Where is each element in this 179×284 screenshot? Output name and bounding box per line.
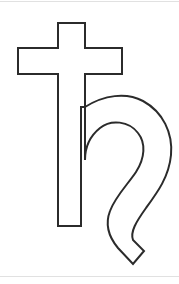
- saturn-shape-group: [18, 23, 171, 264]
- hook-outline: [85, 96, 171, 264]
- scan-edge-bottom: [0, 276, 179, 277]
- saturn-symbol-figure: [0, 0, 179, 284]
- page-root: Saturn symbol: [0, 0, 179, 284]
